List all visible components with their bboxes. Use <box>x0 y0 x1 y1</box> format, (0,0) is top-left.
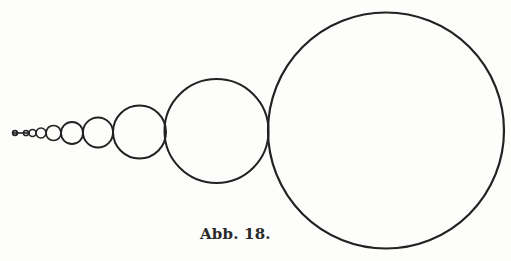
circle-7 <box>36 128 46 138</box>
circle-6 <box>46 126 61 141</box>
circle-8 <box>29 130 36 137</box>
circle-chain-figure <box>0 0 511 261</box>
circle-4 <box>83 118 113 148</box>
circle-5 <box>61 122 83 144</box>
circle-2 <box>165 79 269 183</box>
figure-caption: Abb. 18. <box>200 225 271 243</box>
circle-3 <box>113 106 166 159</box>
circle-1 <box>268 13 504 249</box>
